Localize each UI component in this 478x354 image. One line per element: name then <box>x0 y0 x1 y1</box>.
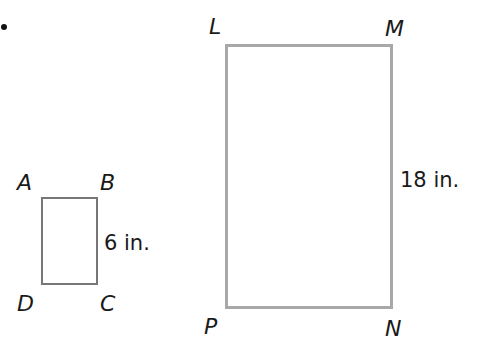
rectangle-abcd <box>41 197 98 285</box>
rectangle-lmnp <box>225 44 393 309</box>
vertex-label-p: P <box>204 316 217 338</box>
vertex-label-m: M <box>385 18 404 40</box>
side-length-mn: 18 in. <box>400 169 459 191</box>
bullet-dot <box>1 24 7 30</box>
vertex-label-c: C <box>100 293 115 315</box>
vertex-label-b: B <box>100 172 115 194</box>
vertex-label-l: L <box>209 16 221 38</box>
side-length-bc: 6 in. <box>104 232 150 254</box>
vertex-label-d: D <box>17 293 34 315</box>
vertex-label-a: A <box>17 172 32 194</box>
vertex-label-n: N <box>385 318 401 340</box>
